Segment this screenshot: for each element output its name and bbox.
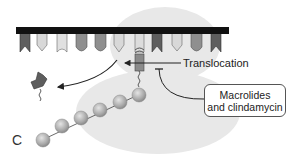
released-trna [31,72,47,101]
trna-2 [37,33,47,51]
mrna-bar [16,27,229,34]
panel-letter: C [12,132,22,148]
trna-3 [57,33,67,52]
drug-label-line1: Macrolides [220,89,271,101]
trna-4 [76,33,87,51]
trna-5 [95,33,106,51]
trna-10 [191,33,202,51]
trna-1 [20,33,30,52]
diagram-canvas: Translocation Macrolides and clindamycin… [0,0,304,158]
drug-label-line2: and clindamycin [207,101,282,113]
translocation-label: Translocation [183,57,249,69]
drug-callout-box: Macrolides and clindamycin [204,84,286,117]
